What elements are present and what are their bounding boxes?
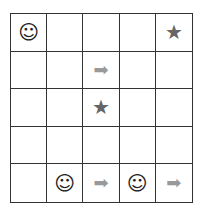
board-cell[interactable] [11, 164, 47, 202]
board-cell[interactable]: ➡ [156, 164, 192, 202]
game-board: ☺★➡★☺➡☺➡ [10, 13, 193, 203]
arrow-icon: ➡ [93, 174, 108, 192]
board-cell[interactable]: ➡ [83, 52, 119, 90]
star-icon: ★ [165, 22, 183, 42]
board-cell[interactable]: ★ [83, 89, 119, 127]
board-cell[interactable] [120, 127, 156, 165]
board-cell[interactable]: ☺ [11, 14, 47, 52]
board-cell[interactable] [83, 127, 119, 165]
board-cell[interactable] [156, 52, 192, 90]
board-cell[interactable] [83, 14, 119, 52]
board-cell[interactable] [156, 89, 192, 127]
board-cell[interactable]: ➡ [83, 164, 119, 202]
smiley-icon: ☺ [127, 173, 148, 193]
board-cell[interactable] [11, 127, 47, 165]
board-cell[interactable]: ★ [156, 14, 192, 52]
smiley-icon: ☺ [18, 22, 39, 42]
board-cell[interactable] [11, 52, 47, 90]
board-cell[interactable]: ☺ [47, 164, 83, 202]
board-cell[interactable] [47, 127, 83, 165]
arrow-icon: ➡ [166, 174, 181, 192]
board-cell[interactable] [47, 52, 83, 90]
board-cell[interactable] [11, 89, 47, 127]
board-cell[interactable] [47, 89, 83, 127]
star-icon: ★ [92, 97, 110, 117]
board-cell[interactable] [120, 14, 156, 52]
board-cell[interactable] [120, 52, 156, 90]
arrow-icon: ➡ [93, 61, 108, 79]
board-cell[interactable] [156, 127, 192, 165]
board-cell[interactable]: ☺ [120, 164, 156, 202]
board-cell[interactable] [120, 89, 156, 127]
board-cell[interactable] [47, 14, 83, 52]
smiley-icon: ☺ [54, 173, 75, 193]
